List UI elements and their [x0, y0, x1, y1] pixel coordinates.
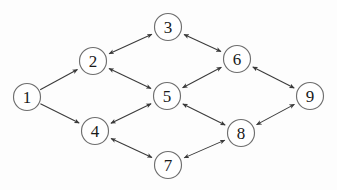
edge-1-2 — [40, 69, 77, 89]
node-1: 1 — [14, 84, 41, 111]
node-layer: 123456789 — [14, 14, 324, 179]
edge-3-6 — [184, 34, 221, 51]
node-5: 5 — [154, 83, 181, 110]
node-4: 4 — [82, 118, 109, 145]
edge-8-9 — [257, 104, 295, 124]
edge-4-7 — [111, 138, 152, 157]
node-9: 9 — [297, 83, 324, 110]
node-3: 3 — [155, 14, 182, 41]
node-2: 2 — [80, 48, 107, 75]
node-label-3: 3 — [164, 18, 173, 37]
node-8: 8 — [228, 120, 255, 147]
node-label-6: 6 — [233, 50, 242, 69]
edge-4-5 — [111, 104, 151, 124]
node-6: 6 — [224, 46, 251, 73]
edge-2-3 — [109, 34, 152, 53]
node-label-5: 5 — [163, 87, 172, 106]
node-label-8: 8 — [237, 124, 246, 143]
edge-5-6 — [183, 67, 222, 87]
node-label-4: 4 — [91, 122, 100, 141]
edge-7-8 — [184, 140, 225, 158]
node-label-1: 1 — [23, 88, 32, 107]
graph-canvas: 123456789 — [0, 0, 337, 190]
edge-2-5 — [109, 69, 151, 89]
node-label-9: 9 — [306, 87, 315, 106]
edge-6-9 — [253, 67, 294, 88]
node-label-7: 7 — [164, 156, 173, 175]
edge-5-8 — [183, 104, 225, 125]
node-label-2: 2 — [89, 52, 98, 71]
graph-diagram: 123456789 — [0, 0, 337, 190]
node-7: 7 — [155, 152, 182, 179]
edge-1-4 — [40, 104, 79, 123]
